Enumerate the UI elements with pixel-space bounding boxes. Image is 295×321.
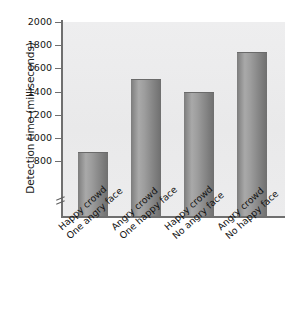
- y-tick-label: 1800: [12, 39, 52, 50]
- y-tick-label: 2000: [12, 16, 52, 27]
- y-tick-mark: [55, 161, 63, 162]
- y-tick-label: 1200: [12, 109, 52, 120]
- bar-chart-figure: Detection time (milliseconds) 8001000120…: [0, 0, 295, 321]
- y-tick-mark: [55, 45, 63, 46]
- y-tick-mark: [55, 22, 63, 23]
- y-tick-label: 1000: [12, 132, 52, 143]
- y-tick-mark: [55, 115, 63, 116]
- y-tick-label: 1600: [12, 62, 52, 73]
- y-tick-mark: [55, 68, 63, 69]
- y-tick-mark: [55, 138, 63, 139]
- y-tick-label: 1400: [12, 86, 52, 97]
- y-tick-mark: [55, 92, 63, 93]
- y-tick-label: 800: [12, 155, 52, 166]
